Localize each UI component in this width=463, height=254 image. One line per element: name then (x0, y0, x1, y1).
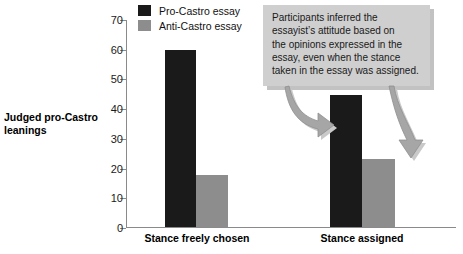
callout-box: Participants inferred the essayist’s att… (263, 5, 430, 86)
black-swatch-icon (138, 5, 151, 16)
bar-freely-chosen-pro (165, 50, 196, 227)
callout-line-2: essayist’s attitude based on (272, 24, 422, 37)
y-axis-title-line-2: leanings (4, 124, 104, 137)
callout-line-3: the opinions expressed in the (272, 38, 422, 51)
bar-assigned-anti (362, 159, 395, 227)
bar-assigned-pro (330, 95, 362, 227)
legend-label-pro-castro: Pro-Castro essay (159, 5, 240, 17)
y-axis-line (126, 20, 127, 228)
callout-line-1: Participants inferred the (272, 11, 422, 24)
y-axis-title-line-1: Judged pro-Castro (4, 111, 104, 124)
bar-chart-figure: Judged pro-Castro leanings Pro-Castro es… (0, 0, 463, 254)
category-label-assigned: Stance assigned (321, 232, 404, 244)
callout-line-4: essay, even when the stance (272, 51, 422, 64)
x-axis-line (126, 227, 456, 228)
legend-item-pro-castro: Pro-Castro essay (138, 3, 242, 18)
callout-line-5: taken in the essay was assigned. (272, 64, 422, 77)
y-axis-title: Judged pro-Castro leanings (4, 111, 104, 137)
category-label-freely-chosen: Stance freely chosen (144, 232, 249, 244)
bar-freely-chosen-anti (196, 175, 228, 227)
